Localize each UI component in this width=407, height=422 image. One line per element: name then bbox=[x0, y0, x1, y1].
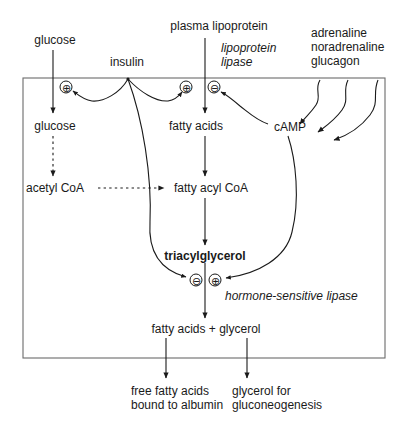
label-hormone-sensitive-lipase: hormone-sensitive lipase bbox=[225, 289, 358, 303]
symbol-minus-lipoprotein-lipase: ⊖ bbox=[208, 81, 221, 94]
wavy-arrow-hormone-3 bbox=[334, 80, 378, 140]
label-fatty-acids-plus-glycerol: fatty acids + glycerol bbox=[151, 322, 260, 336]
wavy-arrow-hormone-2 bbox=[318, 80, 348, 132]
label-glucose-extracellular: glucose bbox=[34, 33, 75, 47]
symbol-plus-hormone-sensitive-lipase: ⊕ bbox=[209, 274, 222, 287]
symbol-plus-lipogenesis: ⊕ bbox=[180, 81, 193, 94]
label-glucose-intracellular: glucose bbox=[34, 119, 75, 133]
label-noradrenaline: noradrenaline bbox=[311, 40, 384, 54]
label-plasma-lipoprotein: plasma lipoprotein bbox=[170, 19, 267, 33]
symbol-minus-hormone-sensitive-lipase: ⊖ bbox=[190, 274, 203, 287]
label-adrenaline: adrenaline bbox=[311, 26, 367, 40]
label-free-fatty-acids-line2: bound to albumin bbox=[131, 398, 223, 412]
curve-insulin-to-minus-hsl bbox=[128, 79, 186, 277]
label-glucagon: glucagon bbox=[311, 54, 360, 68]
label-glycerol-line2: gluconeogenesis bbox=[232, 398, 322, 412]
label-insulin: insulin bbox=[110, 55, 144, 69]
label-glycerol-line1: glycerol for bbox=[232, 384, 291, 398]
curve-insulin-to-plus-glucose bbox=[73, 79, 128, 101]
label-lipoprotein-lipase-line1: lipoprotein bbox=[221, 41, 276, 55]
label-acetyl-coa: acetyl CoA bbox=[26, 181, 84, 195]
insulin-hub-node bbox=[126, 77, 129, 80]
symbol-plus-glucose-uptake: ⊕ bbox=[60, 81, 73, 94]
label-triacylglycerol: triacylglycerol bbox=[164, 249, 245, 263]
wavy-arrow-hormone-1 bbox=[300, 80, 320, 124]
curve-insulin-to-plus-lipogenesis bbox=[128, 79, 182, 101]
label-free-fatty-acids-line1: free fatty acids bbox=[131, 384, 209, 398]
diagram-canvas: acetyl CoA --> fatty acyl CoA --> bbox=[0, 0, 407, 422]
label-fatty-acids: fatty acids bbox=[169, 119, 223, 133]
label-lipoprotein-lipase-line2: lipase bbox=[221, 55, 252, 69]
curve-lipase-to-minus bbox=[221, 92, 268, 124]
label-camp: cAMP bbox=[274, 120, 306, 134]
label-fatty-acyl-coa: fatty acyl CoA bbox=[174, 181, 248, 195]
